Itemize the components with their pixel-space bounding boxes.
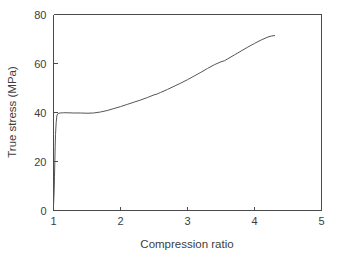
- x-tick-label: 4: [251, 215, 257, 227]
- x-axis-title: Compression ratio: [140, 238, 233, 250]
- y-tick-label: 0: [40, 205, 46, 217]
- x-tick-label: 1: [50, 215, 56, 227]
- stress-strain-chart: 020406080 12345 Compression ratio True s…: [0, 0, 339, 259]
- y-tick-label: 60: [34, 58, 46, 70]
- y-axis-title: True stress (MPa): [6, 66, 18, 158]
- y-tick-label: 80: [34, 9, 46, 21]
- x-tick-label: 2: [117, 215, 123, 227]
- x-tick-label: 3: [184, 215, 190, 227]
- y-tick-label: 20: [34, 156, 46, 168]
- figure-canvas: 020406080 12345 Compression ratio True s…: [0, 0, 339, 259]
- x-tick-label: 5: [318, 215, 324, 227]
- y-tick-label: 40: [34, 107, 46, 119]
